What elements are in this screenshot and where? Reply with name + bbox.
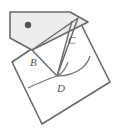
point-label-d: D <box>56 82 65 94</box>
point-label-b: B <box>30 56 37 68</box>
flap-marker-dot <box>25 22 31 28</box>
figure-canvas: B C D <box>0 0 126 135</box>
geometry-figure: B C D <box>0 0 126 135</box>
point-label-c: C <box>68 34 76 46</box>
